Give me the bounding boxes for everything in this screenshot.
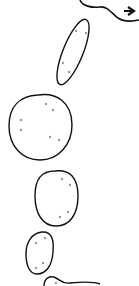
oval-4 — [26, 232, 53, 274]
circle-2 — [9, 94, 72, 160]
ellipse-1 — [51, 16, 96, 88]
bottom-blob — [44, 277, 100, 286]
oval-3 — [35, 171, 78, 226]
diagram-canvas — [0, 0, 139, 286]
